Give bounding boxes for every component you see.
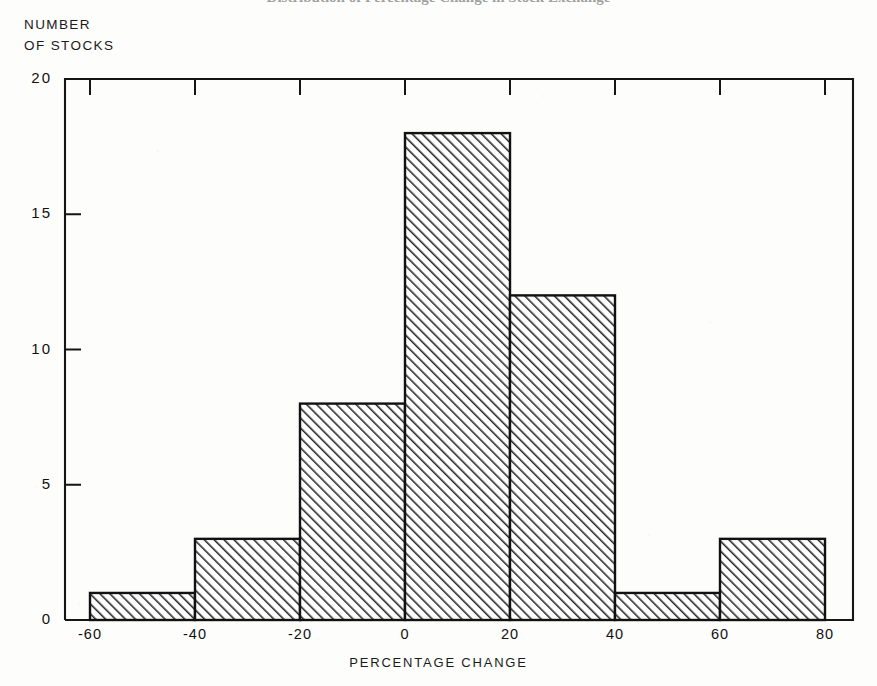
y-axis-tick-label: 20 <box>6 69 52 86</box>
histogram-plot: 05101520 -60-40-20020406080 <box>0 0 877 686</box>
x-axis-tick-label: -60 <box>60 626 120 642</box>
x-axis-ticks <box>90 79 825 95</box>
x-axis-tick-label: 20 <box>480 626 540 642</box>
x-axis-tick-label: 40 <box>585 626 645 642</box>
x-axis-tick-label: 0 <box>375 626 435 642</box>
histogram-bar <box>615 593 720 620</box>
x-axis-tick-label: -20 <box>270 626 330 642</box>
page-title: Distribution of Percentage Change in Sto… <box>267 0 611 6</box>
x-axis-tick-label: 80 <box>795 626 855 642</box>
histogram-bar <box>720 539 825 620</box>
y-axis-tick-label: 5 <box>6 475 52 492</box>
x-axis-tick-label: 60 <box>690 626 750 642</box>
histogram-bar <box>90 593 195 620</box>
y-axis-tick-label: 0 <box>6 610 52 627</box>
histogram-bars <box>90 133 825 620</box>
x-axis-tick-label: -40 <box>165 626 225 642</box>
page-title-sliver: Distribution of Percentage Change in Sto… <box>0 0 877 9</box>
y-axis-tick-label: 10 <box>6 340 52 357</box>
histogram-bar <box>405 133 510 620</box>
histogram-bar <box>300 404 405 620</box>
y-axis-tick-label: 15 <box>6 204 52 221</box>
histogram-svg <box>0 0 877 686</box>
histogram-bar <box>195 539 300 620</box>
y-axis-ticks <box>65 214 81 485</box>
x-axis-caption: PERCENTAGE CHANGE <box>0 655 877 670</box>
histogram-bar <box>510 295 615 620</box>
